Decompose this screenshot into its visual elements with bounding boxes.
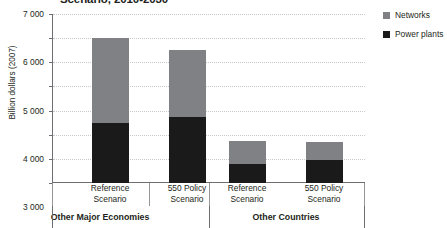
category-label: ReferenceScenario — [208, 183, 286, 205]
category-label-line1: Reference — [71, 183, 149, 194]
category-label: 550 PolicyScenario — [285, 183, 363, 205]
category-label-line1: 550 Policy — [285, 183, 363, 194]
category-label-band: ReferenceScenario550 PolicyScenarioRefer… — [52, 183, 365, 206]
group-separator — [209, 206, 210, 228]
bar-2[interactable] — [169, 50, 206, 183]
chart-figure: Scenario, 2010-2030 Billion dollars (200… — [0, 0, 447, 228]
bar-3[interactable] — [229, 141, 266, 183]
legend-label: Power plants — [395, 29, 443, 39]
group-label: Other Countries — [216, 212, 356, 222]
chart-title: Scenario, 2010-2030 — [60, 0, 360, 6]
y-tick-mark: 6 000 — [49, 38, 52, 39]
group-label-band: Other Major EconomiesOther Countries — [52, 206, 365, 228]
y-tick-mark: 4 000 — [49, 86, 52, 87]
bar-segment-power-plants[interactable] — [229, 164, 266, 183]
y-tick-label: 6 000 — [23, 57, 44, 67]
group-separator — [52, 206, 53, 228]
y-tick-label: 7 000 — [23, 9, 44, 19]
bar-segment-networks[interactable] — [169, 50, 206, 117]
legend-item[interactable]: Power plants — [383, 29, 447, 39]
bar-4[interactable] — [306, 142, 343, 183]
y-tick-mark: 7 000 — [49, 14, 52, 15]
y-tick-mark: 5 000 — [49, 62, 52, 63]
bar-1[interactable] — [92, 38, 129, 183]
y-axis-title: Billion dollars (2007) — [8, 23, 17, 143]
y-tick-mark: 3 000 — [49, 111, 52, 112]
bar-segment-networks[interactable] — [92, 38, 129, 123]
y-tick-label: 4 000 — [23, 154, 44, 164]
legend-swatch-icon — [383, 12, 390, 19]
plot-area: 7 0006 0005 0004 0003 0002 0001 0000 — [52, 14, 365, 183]
chart-legend: NetworksPower plants — [383, 10, 447, 48]
bar-segment-power-plants[interactable] — [306, 160, 343, 183]
category-label-line2: Scenario — [208, 194, 286, 205]
category-label: ReferenceScenario — [71, 183, 149, 205]
y-tick-mark: 1 000 — [49, 159, 52, 160]
category-label-line1: Reference — [208, 183, 286, 194]
category-separator — [209, 183, 210, 206]
y-tick-label: 5 000 — [23, 106, 44, 116]
category-separator — [52, 183, 53, 206]
y-tick-mark: 2 000 — [49, 135, 52, 136]
category-label-line2: Scenario — [285, 194, 363, 205]
group-separator — [364, 206, 365, 228]
bar-segment-power-plants[interactable] — [169, 117, 206, 183]
bar-segment-networks[interactable] — [306, 142, 343, 160]
category-separator — [149, 183, 150, 206]
gridline — [53, 14, 365, 16]
legend-label: Networks — [395, 10, 430, 20]
category-label-line2: Scenario — [71, 194, 149, 205]
bar-segment-networks[interactable] — [229, 141, 266, 164]
legend-swatch-icon — [383, 31, 390, 38]
y-tick-label: 3 000 — [23, 202, 44, 212]
category-separator — [364, 183, 365, 206]
group-label: Other Major Economies — [30, 212, 170, 222]
legend-item[interactable]: Networks — [383, 10, 447, 20]
bar-segment-power-plants[interactable] — [92, 123, 129, 183]
